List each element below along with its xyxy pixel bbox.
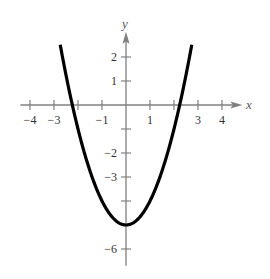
y-tick-label: 1 [111,74,117,88]
x-tick-label: 1 [147,113,153,127]
x-tick-label: 3 [195,113,201,127]
y-tick-label: −6 [104,242,117,256]
y-tick-label: −2 [104,146,117,160]
y-tick-label: −3 [104,170,117,184]
y-axis-label: y [120,16,128,31]
plot-area: xy−4−3−113421−2−3−6 [0,0,270,279]
y-tick-label: 2 [111,50,117,64]
x-tick-label: 4 [219,113,225,127]
graph-figure: xy−4−3−113421−2−3−6 [0,0,270,279]
x-tick-label: −3 [48,113,61,127]
x-tick-label: −4 [24,113,37,127]
x-axis-label: x [245,97,252,112]
x-tick-label: −1 [96,113,109,127]
